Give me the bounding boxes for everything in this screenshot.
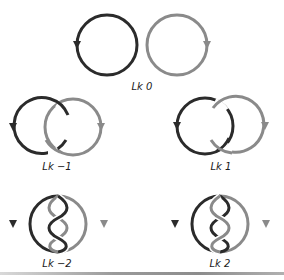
arrow-down-icon	[262, 220, 270, 228]
panel-label: Lk 1	[211, 161, 232, 172]
panel-lk1: Lk 1	[173, 96, 269, 172]
arrow-down-icon	[73, 41, 81, 49]
dark-ring	[77, 15, 137, 75]
panel-label: Lk 0	[132, 81, 153, 92]
panel-lk2: Lk 2	[171, 196, 270, 269]
arrow-down-icon	[173, 122, 181, 130]
panel-label: Lk −1	[42, 161, 71, 172]
panel-lk0: Lk 0	[73, 15, 211, 92]
panel-label: Lk 2	[210, 258, 231, 269]
bottom-rule	[0, 272, 284, 275]
arrow-down-icon	[100, 220, 108, 228]
linking-number-diagram: Lk 0 Lk −1 Lk 1 Lk −2	[0, 0, 284, 280]
arrow-down-icon	[97, 123, 105, 131]
panel-lk-neg1: Lk −1	[9, 98, 105, 172]
panel-lk-neg2: Lk −2	[9, 196, 108, 269]
arrow-down-icon	[203, 41, 211, 49]
panel-label: Lk −2	[42, 258, 71, 269]
arrow-down-icon	[171, 220, 179, 228]
gray-ring	[147, 15, 207, 75]
arrow-down-icon	[9, 220, 17, 228]
